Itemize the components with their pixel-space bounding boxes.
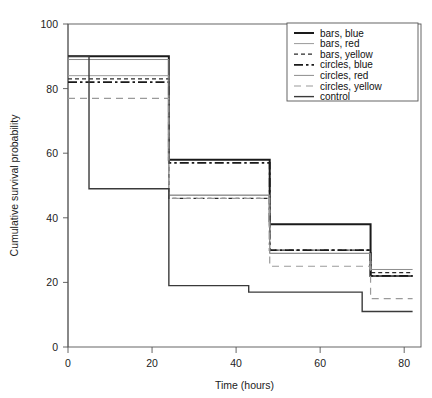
x-axis-tick-label: 60 — [314, 357, 326, 369]
y-axis-tick-label: 100 — [40, 18, 58, 30]
legend-label-1: bars, red — [320, 38, 359, 49]
x-axis-tick-label: 0 — [65, 357, 71, 369]
chart-canvas: 020406080100020406080Time (hours)Cumulat… — [0, 0, 432, 398]
x-axis-tick-label: 40 — [230, 357, 242, 369]
legend-label-0: bars, blue — [320, 28, 364, 39]
x-axis-tick-label: 20 — [146, 357, 158, 369]
y-axis-tick-label: 80 — [46, 83, 58, 95]
legend-label-2: bars, yellow — [320, 49, 374, 60]
series-line-1 — [68, 76, 413, 276]
y-axis-tick-label: 20 — [46, 276, 58, 288]
legend-label-3: circles, blue — [320, 59, 373, 70]
legend-label-4: circles, red — [320, 70, 368, 81]
y-axis-tick-label: 0 — [52, 341, 58, 353]
y-axis-title: Cumulative survival probability — [8, 114, 20, 257]
y-axis-tick-label: 60 — [46, 147, 58, 159]
x-axis-tick-label: 80 — [398, 357, 410, 369]
series-line-5 — [68, 98, 413, 298]
legend-label-6: control — [320, 91, 350, 102]
x-axis-title: Time (hours) — [215, 379, 274, 391]
legend-label-5: circles, yellow — [320, 81, 382, 92]
series-line-2 — [68, 79, 413, 273]
y-axis-tick-label: 40 — [46, 212, 58, 224]
series-line-3 — [68, 82, 413, 276]
survival-chart: 020406080100020406080Time (hours)Cumulat… — [0, 0, 432, 398]
